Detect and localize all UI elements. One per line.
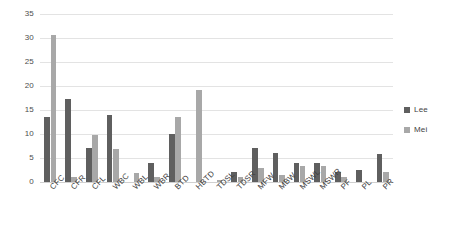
bar-mei-hbtd[interactable] <box>196 90 202 182</box>
bar-lee-wbc[interactable] <box>107 115 113 182</box>
legend-item-label: Lee <box>414 106 428 114</box>
x-axis: CFCCFRCFLWBCWBLWBRBTDHBTDTDSLTDSRMFWMBWM… <box>40 183 393 236</box>
square-marker <box>404 127 410 133</box>
legend-item-label: Mei <box>414 126 428 134</box>
bar-group <box>123 14 144 182</box>
bar-lee-cfc[interactable] <box>44 117 50 182</box>
bar-group <box>372 14 393 182</box>
legend-item-lee[interactable]: Lee <box>404 102 454 117</box>
bar-mei-cfc[interactable] <box>51 35 57 182</box>
bar-mei-cfl[interactable] <box>92 135 98 182</box>
bar-group <box>268 14 289 182</box>
bar-lee-pl[interactable] <box>356 170 362 182</box>
y-axis-tick-label: 10 <box>0 130 34 138</box>
bar-group <box>102 14 123 182</box>
bar-mei-btd[interactable] <box>175 117 181 182</box>
bar-chart: 05101520253035 CFCCFRCFLWBCWBLWBRBTDHBTD… <box>0 0 457 236</box>
bar-lee-pr[interactable] <box>377 154 383 182</box>
bar-group <box>144 14 165 182</box>
bar-group <box>40 14 61 182</box>
bars-layer <box>40 14 393 182</box>
y-axis-tick-label: 5 <box>0 154 34 162</box>
bar-group <box>351 14 372 182</box>
bar-group <box>82 14 103 182</box>
bar-group <box>248 14 269 182</box>
y-axis-tick-label: 30 <box>0 34 34 42</box>
legend-item-mei[interactable]: Mei <box>404 122 454 137</box>
bar-group <box>331 14 352 182</box>
y-axis-tick-label: 20 <box>0 82 34 90</box>
bar-group <box>185 14 206 182</box>
y-axis-tick-label: 15 <box>0 106 34 114</box>
bar-lee-cfl[interactable] <box>86 148 92 182</box>
bar-group <box>206 14 227 182</box>
plot-area <box>40 14 393 182</box>
bar-group <box>289 14 310 182</box>
y-axis-tick-label: 35 <box>0 10 34 18</box>
bar-lee-cfr[interactable] <box>65 99 71 182</box>
y-axis-tick-label: 25 <box>0 58 34 66</box>
y-axis-tick-label: 0 <box>0 178 34 186</box>
bar-group <box>61 14 82 182</box>
y-axis: 05101520253035 <box>0 14 34 182</box>
square-marker <box>404 107 410 113</box>
chart-legend: LeeMei <box>404 102 454 142</box>
bar-group <box>227 14 248 182</box>
bar-group <box>165 14 186 182</box>
bar-group <box>310 14 331 182</box>
